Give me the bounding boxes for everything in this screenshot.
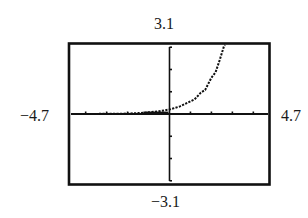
xmin-label: −4.7 (20, 108, 49, 124)
ymin-label: −3.1 (151, 194, 180, 210)
ymax-label: 3.1 (154, 16, 174, 32)
xmax-label: 4.7 (281, 108, 301, 124)
